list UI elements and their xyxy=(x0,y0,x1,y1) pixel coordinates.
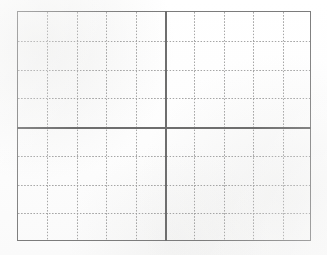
quadrant-divider-horizontal xyxy=(17,127,311,129)
minor-gridline-vertical-6 xyxy=(224,12,225,240)
grid-frame xyxy=(17,11,311,241)
minor-gridline-vertical-5 xyxy=(194,12,195,240)
minor-gridline-horizontal-1 xyxy=(18,41,310,42)
minor-gridline-vertical-8 xyxy=(283,12,284,240)
minor-gridline-vertical-1 xyxy=(47,12,48,240)
minor-gridline-horizontal-2 xyxy=(18,70,310,71)
minor-gridline-vertical-4 xyxy=(136,12,137,240)
minor-gridline-horizontal-3 xyxy=(18,98,310,99)
minor-gridline-vertical-2 xyxy=(77,12,78,240)
minor-gridline-horizontal-4 xyxy=(18,156,310,157)
minor-gridline-vertical-3 xyxy=(106,12,107,240)
quadrant-divider-vertical xyxy=(165,11,167,241)
worksheet-page xyxy=(0,0,327,255)
minor-gridline-horizontal-5 xyxy=(18,185,310,186)
minor-gridline-vertical-7 xyxy=(253,12,254,240)
minor-gridline-horizontal-6 xyxy=(18,213,310,214)
